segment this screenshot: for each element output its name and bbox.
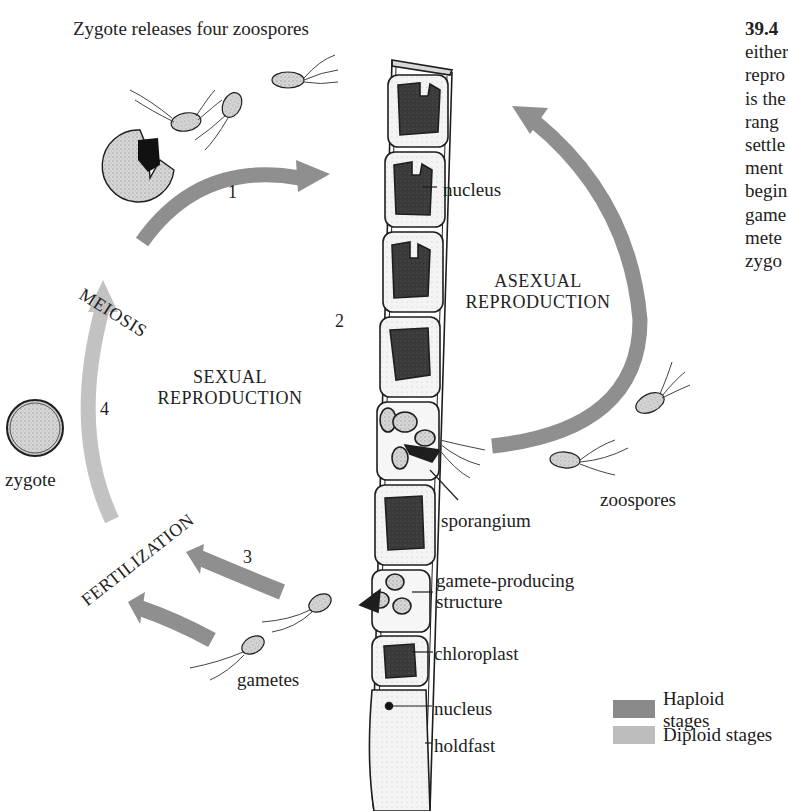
step-number-4: 4 <box>100 400 109 418</box>
zoospores-label: zoospores <box>600 490 676 509</box>
caption-line: repro <box>745 63 788 86</box>
zoospores-right <box>438 362 690 478</box>
caption-line: either <box>745 40 788 63</box>
sexual-line-2: REPRODUCTION <box>140 389 320 407</box>
asexual-reproduction-label: ASEXUAL REPRODUCTION <box>448 272 628 311</box>
sporangium-label: sporangium <box>441 511 531 530</box>
nucleus-label-top: nucleus <box>443 180 501 199</box>
holdfast-label: holdfast <box>434 736 495 755</box>
diagram-title: Zygote releases four zoospores <box>73 19 309 38</box>
caption-line: game <box>745 203 788 226</box>
gamete-structure-line-2: structure <box>436 591 574 612</box>
asexual-line-2: REPRODUCTION <box>448 293 628 311</box>
legend-item-haploid: Haploid stages <box>613 697 775 722</box>
caption-line: ment <box>745 156 788 179</box>
sexual-line-1: SEXUAL <box>140 368 320 386</box>
caption-line: is the <box>745 87 788 110</box>
caption-line: settle <box>745 133 788 156</box>
caption-line: zygo <box>745 249 788 272</box>
legend-label-diploid: Diploid stages <box>663 724 772 746</box>
caption-line: mete <box>745 226 788 249</box>
gametes-label: gametes <box>237 670 299 689</box>
figure-caption: 39.4 either repro is the rang settle men… <box>745 17 788 272</box>
caption-line: rang <box>745 110 788 133</box>
step-number-1: 1 <box>228 183 237 201</box>
gamete-structure-line-1: gamete-producing <box>436 570 574 591</box>
zygote-label: zygote <box>5 470 56 489</box>
gamete-producing-structure-label: gamete-producing structure <box>436 570 574 612</box>
asexual-line-1: ASEXUAL <box>448 272 628 290</box>
figure-number: 39.4 <box>745 17 788 40</box>
step-number-2: 2 <box>335 312 344 330</box>
legend: Haploid stages Diploid stages <box>613 697 775 747</box>
caption-line: begin <box>745 179 788 202</box>
step-number-3: 3 <box>243 548 252 566</box>
sexual-reproduction-label: SEXUAL REPRODUCTION <box>140 368 320 407</box>
zygote-cell <box>7 400 63 456</box>
nucleus-label-bottom: nucleus <box>434 699 492 718</box>
legend-item-diploid: Diploid stages <box>613 722 775 747</box>
chloroplast-label: chloroplast <box>434 644 518 663</box>
